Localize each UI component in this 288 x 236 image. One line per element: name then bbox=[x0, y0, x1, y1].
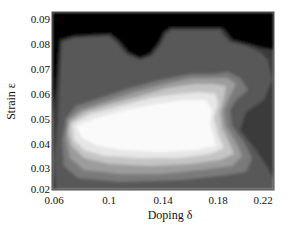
contour-chart: 0.09 0.08 0.07 0.06 0.05 0.04 0.03 0.02 … bbox=[0, 0, 288, 236]
y-tick-label: 0.09 bbox=[22, 13, 50, 25]
y-tick-label: 0.06 bbox=[22, 88, 50, 100]
x-tick-label: 0.1 bbox=[89, 194, 129, 206]
y-tick-label: 0.04 bbox=[22, 138, 50, 150]
x-tick-label: 0.18 bbox=[198, 194, 238, 206]
y-tick-label: 0.05 bbox=[22, 113, 50, 125]
y-tick-label: 0.03 bbox=[22, 162, 50, 174]
x-axis-title: Doping δ bbox=[0, 208, 288, 223]
x-tick-label: 0.14 bbox=[143, 194, 183, 206]
x-tick-label: 0.22 bbox=[243, 194, 283, 206]
y-axis-title: Strain ε bbox=[4, 77, 19, 127]
x-tick-label: 0.06 bbox=[34, 194, 74, 206]
y-tick-label: 0.07 bbox=[22, 63, 50, 75]
y-tick-label: 0.08 bbox=[22, 38, 50, 50]
